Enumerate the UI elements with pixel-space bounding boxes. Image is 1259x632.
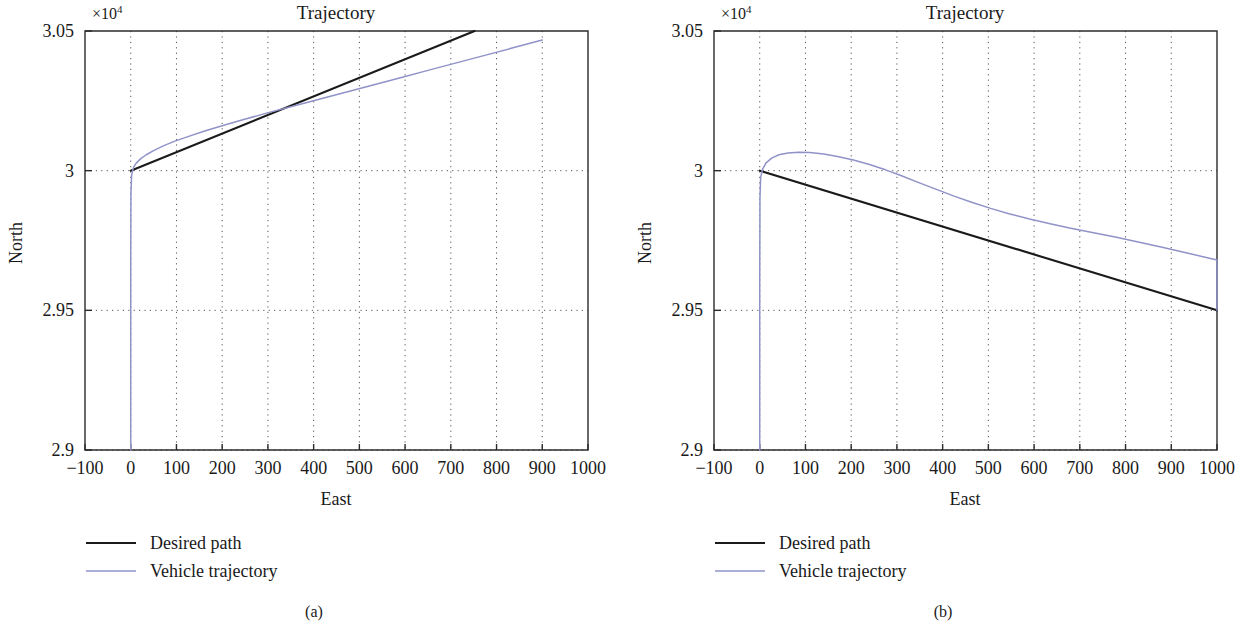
- x-tick-label: 900: [529, 458, 556, 478]
- series-desired-path: [131, 31, 475, 171]
- x-tick-label: 400: [929, 458, 956, 478]
- legend-label-desired-path: Desired path: [150, 533, 241, 553]
- x-axis-label: East: [321, 489, 352, 509]
- plot-title: Trajectory: [297, 2, 376, 23]
- trajectory-plot-a: Trajectory ×104 −10001002003004005006007…: [0, 0, 629, 632]
- x-tick-label: 1000: [570, 458, 606, 478]
- y-axis-label: North: [6, 222, 26, 264]
- gridlines-b: [714, 31, 1217, 450]
- tick-marks-b: [714, 31, 1217, 450]
- x-tick-label: 200: [209, 458, 236, 478]
- plot-title: Trajectory: [926, 2, 1005, 23]
- legend-label-vehicle-trajectory: Vehicle trajectory: [150, 561, 277, 581]
- y-tick-label: 3.05: [672, 21, 704, 41]
- x-tick-label: 900: [1158, 458, 1185, 478]
- trajectory-plot-b: Trajectory ×104 −10001002003004005006007…: [629, 0, 1258, 632]
- y-tick-label: 3: [694, 161, 703, 181]
- data-series-a: [131, 31, 543, 450]
- x-tick-label: 100: [792, 458, 819, 478]
- x-tick-label: 1000: [1199, 458, 1235, 478]
- figure-root: Trajectory ×104 −10001002003004005006007…: [0, 0, 1259, 632]
- x-tick-label: 0: [755, 458, 764, 478]
- axis-frame: [714, 31, 1217, 450]
- x-tick-label: 700: [437, 458, 464, 478]
- y-tick-label: 3.05: [43, 21, 75, 41]
- axis-frame-b: [714, 31, 1217, 450]
- y-exponent-label: ×104: [92, 3, 123, 22]
- panel-caption: (b): [934, 603, 953, 621]
- y-tick-label: 2.9: [52, 440, 75, 460]
- legend-a: Desired path Vehicle trajectory: [86, 533, 277, 581]
- x-tick-label: 600: [1021, 458, 1048, 478]
- y-tick-label: 3: [65, 161, 74, 181]
- y-axis-label: North: [635, 222, 655, 264]
- x-tick-label: 300: [883, 458, 910, 478]
- x-tick-label: 700: [1066, 458, 1093, 478]
- tick-labels-a: −100010020030040050060070080090010002.92…: [43, 21, 607, 478]
- legend-b: Desired path Vehicle trajectory: [715, 533, 906, 581]
- series-vehicle-trajectory: [131, 40, 543, 450]
- x-tick-label: 300: [254, 458, 281, 478]
- y-exponent-label: ×104: [721, 3, 752, 22]
- series-desired-path: [760, 171, 1217, 311]
- legend-label-vehicle-trajectory: Vehicle trajectory: [779, 561, 906, 581]
- x-tick-label: 400: [300, 458, 327, 478]
- tick-labels-b: −100010020030040050060070080090010002.92…: [672, 21, 1236, 478]
- x-tick-label: −100: [695, 458, 732, 478]
- y-tick-label: 2.95: [43, 300, 75, 320]
- x-tick-label: 600: [392, 458, 419, 478]
- figure-panel-b: Trajectory ×104 −10001002003004005006007…: [629, 0, 1258, 632]
- x-tick-label: 100: [163, 458, 190, 478]
- y-tick-label: 2.9: [681, 440, 704, 460]
- panel-caption: (a): [305, 603, 323, 621]
- figure-panel-a: Trajectory ×104 −10001002003004005006007…: [0, 0, 629, 632]
- x-axis-label: East: [950, 489, 981, 509]
- x-tick-label: 800: [1112, 458, 1139, 478]
- x-tick-label: 0: [126, 458, 135, 478]
- x-tick-label: 500: [975, 458, 1002, 478]
- x-tick-label: 500: [346, 458, 373, 478]
- legend-label-desired-path: Desired path: [779, 533, 870, 553]
- x-tick-label: 200: [838, 458, 865, 478]
- y-tick-label: 2.95: [672, 300, 704, 320]
- x-tick-label: −100: [66, 458, 103, 478]
- x-tick-label: 800: [483, 458, 510, 478]
